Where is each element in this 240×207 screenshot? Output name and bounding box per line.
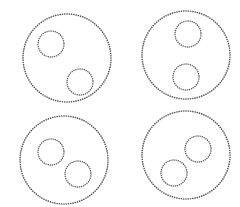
outer-circle xyxy=(142,111,230,199)
inner-circle xyxy=(175,21,201,47)
inner-circle xyxy=(67,69,93,95)
inner-circle xyxy=(38,31,64,57)
panel-top-right xyxy=(142,11,230,99)
inner-circle xyxy=(185,136,211,162)
inner-circle xyxy=(161,160,187,186)
outer-circle xyxy=(142,11,230,99)
panel-bottom-left xyxy=(20,116,108,204)
inner-circle xyxy=(173,64,199,90)
inner-circle xyxy=(38,139,64,165)
diagram-canvas xyxy=(0,0,240,207)
outer-circle xyxy=(23,14,111,102)
inner-circle xyxy=(65,161,91,187)
outer-circle xyxy=(20,116,108,204)
panel-top-left xyxy=(23,14,111,102)
panel-bottom-right xyxy=(142,111,230,199)
